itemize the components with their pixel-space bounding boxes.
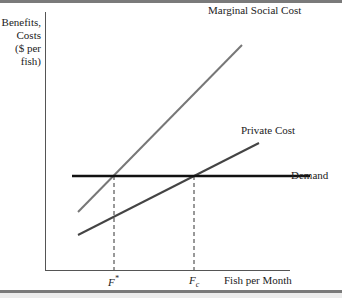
x-axis-label: Fish per Month — [224, 274, 292, 286]
demand-label: Demand — [291, 169, 328, 181]
private-cost-line — [78, 143, 259, 235]
fc-tick-label: Fc — [189, 274, 199, 289]
private-cost-label: Private Cost — [241, 124, 295, 136]
fc-sub: c — [196, 280, 200, 289]
chart-plot — [0, 0, 342, 298]
fstar-sup: * — [115, 274, 119, 283]
fc-main: F — [189, 274, 196, 286]
fstar-main: F — [108, 276, 115, 288]
msc-line — [78, 45, 242, 212]
bottom-fill — [0, 293, 342, 298]
fstar-tick-label: F* — [108, 274, 119, 288]
msc-label: Marginal Social Cost — [208, 4, 301, 16]
